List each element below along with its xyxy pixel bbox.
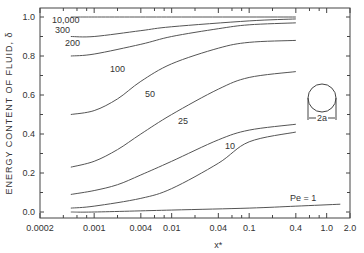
x-tick-label: 0.0002 <box>26 223 54 233</box>
x-tick-label: 0.1 <box>243 223 256 233</box>
y-tick-label: 0.8 <box>22 51 35 61</box>
curve-label: 300 <box>55 25 70 35</box>
y-tick-label: 0.2 <box>22 168 35 178</box>
curve-10 <box>71 132 296 208</box>
x-tick-label: 0.004 <box>130 223 153 233</box>
curve-25 <box>71 124 296 194</box>
x-axis-label: x* <box>214 240 223 250</box>
curve-label: 25 <box>178 116 188 126</box>
curve-label: 10,000 <box>52 15 80 25</box>
y-axis-label: ENERGY CONTENT OF FLUID, δ <box>4 31 14 194</box>
curve-100 <box>71 40 296 114</box>
particle-circle-icon <box>308 84 336 112</box>
curve-label: Pe = 1 <box>290 193 316 203</box>
y-tick-label: 0.4 <box>22 129 35 139</box>
x-tick-label: 0.01 <box>163 223 181 233</box>
curve-label: 50 <box>145 89 155 99</box>
x-tick-label: 0.001 <box>83 223 106 233</box>
curve-200 <box>71 23 296 56</box>
x-tick-label: 0.04 <box>210 223 228 233</box>
curve-pe1 <box>71 204 340 212</box>
x-tick-label: 2.0 <box>344 223 357 233</box>
x-tick-label: 0.4 <box>290 223 303 233</box>
y-tick-label: 0.6 <box>22 90 35 100</box>
curve-label: 200 <box>65 38 80 48</box>
x-tick-label: 1.0 <box>320 223 333 233</box>
y-tick-label: 1.0 <box>22 12 35 22</box>
curve-label: 100 <box>110 64 125 74</box>
y-tick-label: 0.0 <box>22 207 35 217</box>
inset-label: 2a <box>317 113 327 123</box>
chart: 0.00.20.40.60.81.00.00020.0010.0040.010.… <box>0 0 364 253</box>
plot-frame <box>40 8 350 218</box>
curve-label: 10 <box>225 141 235 151</box>
